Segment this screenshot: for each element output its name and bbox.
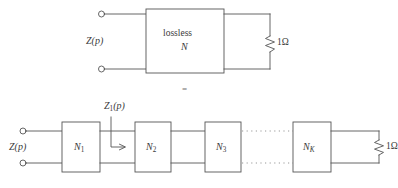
top-terminal-upper	[99, 11, 105, 17]
z1-pointer-line	[111, 117, 124, 147]
lossless-box-label-line2: N	[181, 42, 188, 52]
section-label-nk: NK	[303, 142, 314, 154]
section-symbol-n3: N	[216, 141, 223, 152]
section-subscript-n1: 1	[81, 146, 85, 154]
section-label-n3: N3	[216, 142, 226, 154]
section-label-n1: N1	[74, 142, 84, 154]
section-symbol-n1: N	[74, 141, 81, 152]
lossless-box-label-line1: lossless	[163, 29, 192, 39]
section-symbol-n2: N	[146, 141, 153, 152]
section-label-n2: N2	[146, 142, 156, 154]
top-input-impedance-label: Z(p)	[86, 36, 103, 46]
bottom-load-resistor-zigzag	[375, 140, 384, 155]
bottom-terminal-upper	[20, 128, 26, 134]
z1-argument: (p)	[113, 100, 125, 111]
intermediate-impedance-label: Z1(p)	[104, 101, 125, 113]
circuit-line-art	[0, 0, 398, 188]
section-subscript-n2: 2	[153, 146, 157, 154]
bottom-load-label: 1Ω	[386, 142, 398, 152]
section-subscript-nk: K	[310, 146, 315, 154]
top-load-resistor-zigzag	[266, 36, 275, 52]
section-symbol-nk: N	[303, 141, 310, 152]
section-subscript-n3: 3	[223, 146, 227, 154]
equals-sign: =	[182, 85, 187, 94]
top-terminal-lower	[99, 66, 105, 72]
bottom-terminal-lower	[20, 160, 26, 166]
circuit-figure: Z(p) lossless N 1Ω = Z(p) Z1(p) N1 N2 N3…	[0, 0, 398, 188]
top-load-label: 1Ω	[277, 38, 289, 48]
bottom-input-impedance-label: Z(p)	[9, 142, 26, 152]
